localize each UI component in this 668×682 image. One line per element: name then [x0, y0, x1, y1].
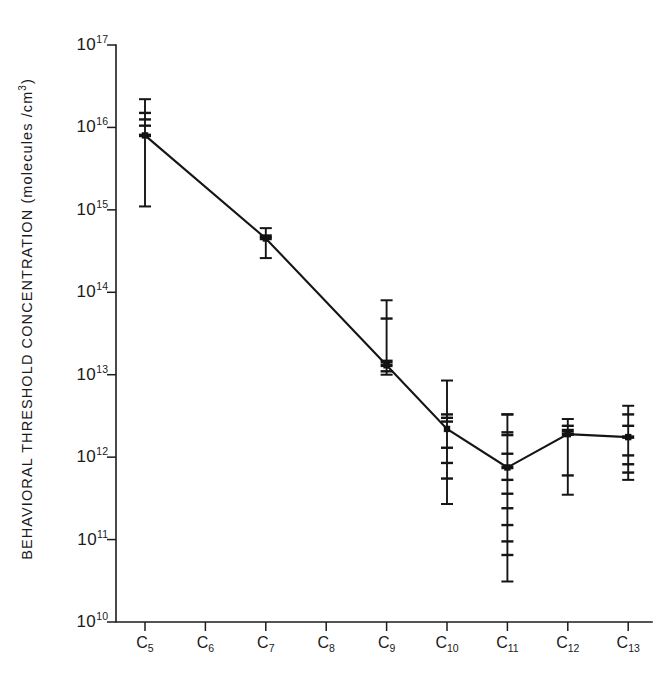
data-point-marker — [383, 362, 389, 368]
axes — [107, 45, 652, 631]
data-point-marker — [565, 431, 571, 437]
y-axis-tick-label: 1012 — [52, 445, 108, 467]
y-tick-exponent: 17 — [96, 33, 108, 45]
y-axis-tick-label: 1013 — [52, 363, 108, 385]
x-axis-tick-label: C6 — [175, 634, 235, 654]
x-tick-subscript: 12 — [568, 642, 580, 654]
y-axis-tick-label: 1015 — [52, 198, 108, 220]
y-axis-title: BEHAVIORAL THRESHOLD CONCENTRATION (mole… — [17, 9, 35, 629]
data-point-marker — [625, 434, 631, 440]
y-tick-exponent: 14 — [96, 280, 108, 292]
axis-spine — [116, 45, 652, 622]
y-tick-base: 10 — [76, 200, 96, 219]
x-tick-subscript: 11 — [508, 642, 519, 654]
x-tick-base: C — [197, 634, 209, 651]
error-bars — [139, 99, 634, 581]
x-tick-base: C — [435, 634, 447, 651]
data-point-marker — [444, 426, 450, 432]
error-bar-group — [441, 381, 453, 504]
error-bar-group — [139, 99, 151, 206]
x-axis-tick-label: C11 — [477, 634, 537, 654]
x-tick-subscript: 6 — [208, 642, 214, 654]
error-bar-group — [381, 300, 393, 374]
x-tick-base: C — [496, 634, 508, 651]
error-bar-group — [622, 406, 634, 480]
error-bar-group — [501, 414, 513, 581]
data-point-marker — [504, 464, 510, 470]
y-axis-tick-label: 1014 — [52, 280, 108, 302]
chart-plot-area — [0, 0, 668, 682]
x-axis-tick-label: C8 — [296, 634, 356, 654]
y-tick-base: 10 — [76, 447, 96, 466]
y-axis-title-text: BEHAVIORAL THRESHOLD CONCENTRATION (mole… — [19, 91, 35, 560]
x-tick-subscript: 9 — [389, 642, 395, 654]
x-tick-subscript: 8 — [329, 642, 335, 654]
y-tick-exponent: 15 — [96, 198, 108, 210]
x-tick-subscript: 7 — [269, 642, 275, 654]
y-tick-base: 10 — [76, 612, 96, 631]
y-tick-base: 10 — [76, 35, 96, 54]
y-tick-exponent: 10 — [96, 610, 108, 622]
data-point-marker — [263, 235, 269, 241]
x-axis-tick-label: C13 — [598, 634, 658, 654]
x-tick-base: C — [136, 634, 148, 651]
x-axis-tick-label: C12 — [538, 634, 598, 654]
y-axis-tick-label: 1011 — [52, 528, 108, 550]
y-tick-base: 10 — [76, 364, 96, 383]
x-axis-tick-label: C9 — [357, 634, 417, 654]
y-axis-title-superscript: 3 — [17, 84, 28, 91]
x-tick-subscript: 5 — [148, 642, 154, 654]
y-axis-tick-label: 1016 — [52, 115, 108, 137]
x-axis-tick-label: C7 — [236, 634, 296, 654]
x-tick-base: C — [556, 634, 568, 651]
y-tick-base: 10 — [77, 529, 97, 548]
x-tick-base: C — [378, 634, 390, 651]
x-tick-base: C — [317, 634, 329, 651]
y-tick-base: 10 — [76, 117, 96, 136]
y-tick-exponent: 16 — [96, 115, 108, 127]
y-axis-tick-label: 1010 — [52, 610, 108, 632]
x-tick-subscript: 13 — [628, 642, 640, 654]
y-axis-title-suffix: ) — [19, 78, 35, 84]
figure-container: 10171016101510141013101210111010 C5C6C7C… — [0, 0, 668, 682]
error-bar-group — [562, 419, 574, 495]
y-axis-tick-label: 1017 — [52, 33, 108, 55]
y-tick-exponent: 11 — [97, 528, 108, 540]
x-tick-subscript: 10 — [447, 642, 459, 654]
data-point-marker — [142, 132, 148, 138]
x-axis-tick-label: C5 — [115, 634, 175, 654]
y-tick-exponent: 13 — [96, 363, 108, 375]
x-axis-tick-label: C10 — [417, 634, 477, 654]
y-tick-exponent: 12 — [96, 445, 108, 457]
y-tick-base: 10 — [76, 282, 96, 301]
x-tick-base: C — [617, 634, 629, 651]
x-tick-base: C — [257, 634, 269, 651]
